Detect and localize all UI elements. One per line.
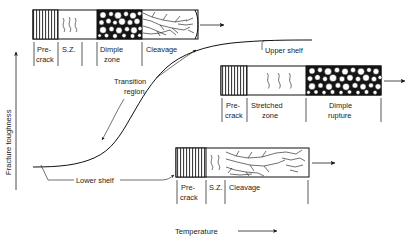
upper-shelf-callout: Upper shelf [262, 40, 304, 55]
zone-pre-crack-pattern [176, 148, 206, 177]
x-axis-label: Temperature [175, 227, 218, 236]
zone-label-pre-crack-line1: Pre- [181, 183, 196, 192]
brittle-specimen: Pre- crack S.Z. Cleavage [176, 148, 335, 204]
zone-label-pre-crack-line2: crack [36, 55, 54, 64]
zone-label-dimple-zone-line1: Dimple [100, 45, 123, 54]
zone-label-stretched-zone-line2: zone [262, 111, 278, 120]
zone-label-sz: S.Z. [209, 183, 223, 192]
transition-region-label-line2: region [124, 87, 145, 96]
zone-label-pre-crack-line2: crack [180, 193, 198, 202]
upper-shelf-label: Upper shelf [265, 46, 304, 55]
zone-dimple-zone-pattern [97, 10, 142, 39]
zone-label-group: Pre- crack S.Z. Cleavage [177, 180, 308, 204]
zone-label-group: Pre- crack Stretched zone Dimple rupture [222, 98, 381, 122]
zone-label-cleavage: Cleavage [229, 183, 260, 192]
zone-label-pre-crack-line2: crack [225, 111, 243, 120]
fracture-toughness-transition-figure: Fracture toughness Temperature Upper she… [0, 0, 407, 245]
zone-label-pre-crack-line1: Pre- [226, 101, 241, 110]
zone-pre-crack-pattern [33, 10, 58, 39]
zone-label-cleavage: Cleavage [146, 45, 177, 54]
upper-shelf-specimen: Pre- crack S.Z. Dimple zone Cleavage [33, 10, 224, 66]
lower-shelf-label: Lower shelf [76, 176, 115, 185]
zone-dimple-rupture-pattern [306, 66, 382, 95]
zone-label-group: Pre- crack S.Z. Dimple zone Cleavage [34, 42, 177, 66]
lower-shelf-callout: Lower shelf [41, 165, 174, 185]
zone-label-stretched-zone-line1: Stretched [251, 101, 283, 110]
transition-region-label-line1: Transition [114, 77, 146, 86]
y-axis-label: Fracture toughness [4, 109, 13, 175]
zone-label-dimple-zone-line2: zone [104, 55, 120, 64]
zone-label-pre-crack-line1: Pre- [37, 45, 52, 54]
zone-label-dimple-rupture-line1: Dimple [329, 101, 352, 110]
zone-pre-crack-pattern [221, 66, 247, 95]
zone-label-dimple-rupture-line2: rupture [328, 111, 351, 120]
zone-label-sz: S.Z. [62, 45, 76, 54]
ductile-specimen: Pre- crack Stretched zone Dimple rupture [221, 66, 405, 122]
transition-leader-upper [156, 50, 196, 78]
